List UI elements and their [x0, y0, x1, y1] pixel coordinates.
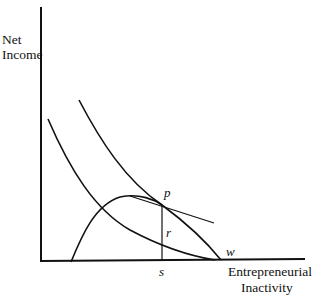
y-axis-label-line2: Income — [2, 47, 42, 62]
point-label-s: s — [159, 265, 164, 278]
point-label-w: w — [226, 245, 235, 258]
point-label-p: p — [164, 186, 171, 199]
diagram-canvas — [0, 0, 313, 299]
x-axis-label-line1: Entrepreneurial — [228, 264, 312, 279]
upper-indifference-curve — [79, 100, 221, 260]
x-axis — [40, 259, 305, 261]
y-axis-label-line1: Net — [2, 32, 22, 47]
tangent-line — [130, 196, 214, 223]
x-axis-label-line2: Inactivity — [241, 280, 293, 295]
lower-indifference-curve — [48, 119, 215, 260]
point-label-r: r — [166, 226, 171, 239]
net-income-curve — [71, 196, 162, 262]
